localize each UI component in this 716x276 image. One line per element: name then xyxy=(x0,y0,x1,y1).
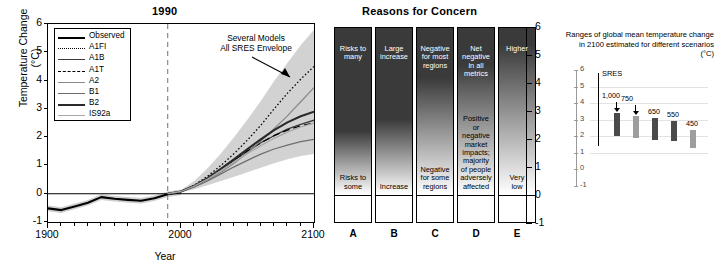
y-tick-label: 0 xyxy=(20,186,42,198)
temperature-projection-chart: 1990 Temperature Change (°C) Year 654321… xyxy=(0,0,330,276)
mini-tick-label: 0 xyxy=(580,163,584,172)
ember-bottom-text: Verylow xyxy=(499,174,535,191)
embers-tick-mark xyxy=(526,139,532,140)
mini-tick-mark xyxy=(574,103,578,104)
mini-gridline xyxy=(590,153,708,154)
ember-column-d: Netnegativein allmetricsPositiveornegati… xyxy=(457,27,495,223)
embers-tick-mark xyxy=(526,83,532,84)
embers-tick-mark xyxy=(526,223,532,224)
ember-zero-line xyxy=(375,195,413,196)
ember-top-text: Negativefor mostregions xyxy=(417,45,453,70)
legend-label: A1B xyxy=(89,53,104,62)
legend-swatch xyxy=(58,59,85,60)
annotation-line-1: Several Models xyxy=(196,33,316,43)
legend-swatch xyxy=(58,71,85,72)
stabilisation-bar-1000 xyxy=(614,113,620,136)
chart-legend: ObservedA1FIA1BA1TA2B1B2IS92a xyxy=(54,28,131,121)
mini-tick-mark xyxy=(574,87,578,88)
stabilisation-label-550: 550 xyxy=(667,110,679,119)
sres-range-line xyxy=(598,73,599,146)
mini-tick-label: 5 xyxy=(580,81,584,90)
legend-swatch xyxy=(58,115,85,116)
embers-tick-mark xyxy=(526,27,532,28)
y-tick-label: 5 xyxy=(20,44,42,56)
stabilisation-bar-650 xyxy=(652,118,658,140)
embers-tick-label: 3 xyxy=(535,104,541,116)
x-tick-label: 1900 xyxy=(25,228,69,240)
stabilisation-arrowhead xyxy=(614,108,620,112)
mini-tick-mark xyxy=(574,186,578,187)
mini-tick-label: 4 xyxy=(580,97,584,106)
legend-label: Observed xyxy=(89,31,125,40)
ember-zero-line xyxy=(416,195,454,196)
x-tick-label: 2000 xyxy=(158,228,202,240)
reasons-for-concern-panel: Reasons for Concern Risks tomanyRisks to… xyxy=(330,0,562,276)
mini-gridline xyxy=(590,103,708,104)
ipcc-composite-figure: 1990 Temperature Change (°C) Year 654321… xyxy=(0,0,716,276)
ember-bottom-text: Negativefor someregions xyxy=(417,166,453,191)
ember-bottom-text: Increase xyxy=(376,183,412,191)
ember-zero-line xyxy=(334,195,372,196)
stabilisation-label-450: 450 xyxy=(686,119,698,128)
mini-gridline xyxy=(590,87,708,88)
reasons-for-concern-title: Reasons for Concern xyxy=(362,5,477,17)
embers-tick-label: 1 xyxy=(535,160,541,172)
legend-swatch xyxy=(58,82,85,83)
x-axis-label: Year xyxy=(0,250,330,262)
embers-tick-label: 5 xyxy=(535,48,541,60)
stabilisation-bar-550 xyxy=(671,121,677,141)
ember-gradient xyxy=(498,27,536,223)
ember-top-text: Netnegativein allmetrics xyxy=(458,45,494,79)
mini-tick-label: 6 xyxy=(580,64,584,73)
embers-tick-label: 6 xyxy=(535,20,541,32)
ember-column-a: Risks tomanyRisks tosome xyxy=(334,27,372,223)
ember-column-e: HigherVerylow xyxy=(498,27,536,223)
mini-tick-mark xyxy=(574,169,578,170)
legend-swatch xyxy=(58,104,85,106)
stabilisation-bar-750 xyxy=(633,116,639,138)
ember-bottom-text: Positiveornegativemarketimpacts;majority… xyxy=(458,115,494,191)
y-tick-label: 1 xyxy=(20,157,42,169)
scenario-caption: Ranges of global mean temperature change… xyxy=(564,30,714,59)
y-tick-label: 3 xyxy=(20,101,42,113)
embers-tick-mark xyxy=(526,167,532,168)
stabilisation-label-750: 750 xyxy=(621,94,633,103)
x-tick-label: 2100 xyxy=(291,228,335,240)
mini-tick-mark xyxy=(574,70,578,71)
annotation-line-2: All SRES Envelope xyxy=(196,43,316,53)
mini-tick-label: 3 xyxy=(580,114,584,123)
stabilisation-arrowhead xyxy=(633,111,639,115)
stabilisation-label-650: 650 xyxy=(648,107,660,116)
ember-letter-b: B xyxy=(375,228,413,239)
mini-tick-label: -1 xyxy=(580,180,587,189)
legend-label: B1 xyxy=(89,87,99,96)
embers-tick-mark xyxy=(526,55,532,56)
ember-top-text: Risks tomany xyxy=(335,45,371,62)
mini-tick-mark xyxy=(574,120,578,121)
mini-tick-label: 2 xyxy=(580,130,584,139)
stabilisation-label-1000: 1,000 xyxy=(602,91,620,100)
embers-tick-mark xyxy=(526,111,532,112)
embers-tick-label: 4 xyxy=(535,76,541,88)
ember-column-c: Negativefor mostregionsNegativefor somer… xyxy=(416,27,454,223)
legend-label: IS92a xyxy=(89,109,110,118)
y-tick-label: 4 xyxy=(20,73,42,85)
legend-label: A1FI xyxy=(89,42,106,51)
embers-tick-mark xyxy=(526,195,532,196)
embers-axis-line xyxy=(526,27,527,223)
ember-letter-c: C xyxy=(416,228,454,239)
y-tick-label: 6 xyxy=(20,16,42,28)
sres-label: SRES xyxy=(602,69,622,78)
legend-swatch xyxy=(58,48,85,49)
legend-label: A2 xyxy=(89,76,99,85)
envelope-annotation: Several Models All SRES Envelope xyxy=(196,33,316,53)
legend-label: A1T xyxy=(89,65,104,74)
embers-tick-label: -1 xyxy=(535,216,544,228)
ember-zero-line xyxy=(457,195,495,196)
embers-tick-label: 2 xyxy=(535,132,541,144)
ember-top-text: Higher xyxy=(499,45,535,53)
page-title-1990: 1990 xyxy=(152,5,177,17)
annotation-arrow xyxy=(250,55,320,85)
legend-swatch xyxy=(58,93,85,94)
y-tick-label: 2 xyxy=(20,129,42,141)
